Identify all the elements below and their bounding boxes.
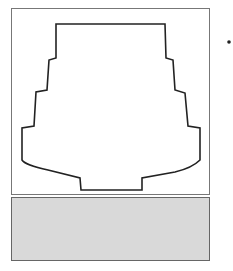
lobby-box — [12, 198, 210, 261]
floor-plan — [0, 0, 233, 271]
hall-outer-box — [12, 9, 210, 195]
pointer-dot — [227, 40, 231, 44]
